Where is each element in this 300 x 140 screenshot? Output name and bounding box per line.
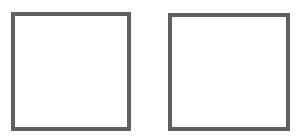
empty-square-right (168, 13, 290, 131)
empty-square-left (11, 12, 131, 131)
